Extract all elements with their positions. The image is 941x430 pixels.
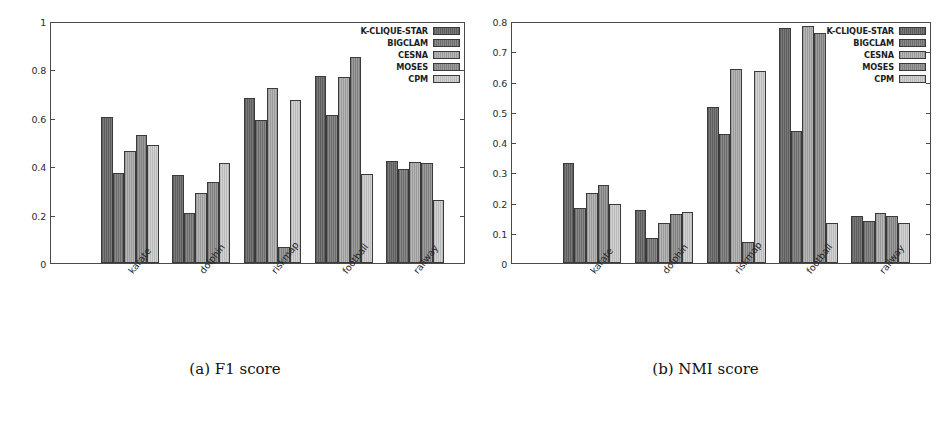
bar bbox=[409, 162, 421, 263]
plot-area-nmi: 00.10.20.30.40.50.60.70.8 karatedolphinr… bbox=[470, 0, 941, 330]
bar bbox=[635, 210, 647, 263]
y-tick-mark bbox=[460, 70, 465, 71]
legend-row: BIGCLAM bbox=[853, 38, 926, 48]
y-tick-label: 0.6 bbox=[16, 113, 46, 124]
plot-area-f1: 00.20.40.60.81 karatedolphinriskmapfootb… bbox=[0, 0, 470, 330]
legend-nmi: K-CLIQUE-STARBIGCLAMCESNAMOSESCPM bbox=[798, 26, 926, 84]
legend-swatch bbox=[433, 75, 460, 83]
bar bbox=[754, 71, 766, 263]
bar bbox=[113, 173, 125, 263]
legend-label: K-CLIQUE-STAR bbox=[361, 26, 428, 36]
bar bbox=[101, 117, 113, 263]
bar bbox=[586, 193, 598, 263]
bar bbox=[386, 161, 398, 263]
legend-row: CPM bbox=[408, 74, 460, 84]
panel-nmi-score: 00.10.20.30.40.50.60.70.8 karatedolphinr… bbox=[470, 0, 941, 330]
bar bbox=[875, 213, 887, 263]
bar bbox=[791, 131, 803, 263]
bar bbox=[326, 115, 338, 263]
caption-nmi: (b) NMI score bbox=[470, 360, 941, 378]
y-tick-mark bbox=[926, 52, 931, 53]
y-tick-label: 0.8 bbox=[16, 65, 46, 76]
legend-row: MOSES bbox=[396, 62, 460, 72]
y-tick-label: 0.7 bbox=[477, 47, 507, 58]
bar bbox=[779, 28, 791, 263]
bar bbox=[851, 216, 863, 263]
legend-label: CESNA bbox=[864, 50, 894, 60]
legend-swatch bbox=[899, 51, 926, 59]
legend-row: MOSES bbox=[862, 62, 926, 72]
legend-swatch bbox=[899, 63, 926, 71]
y-tick-mark bbox=[50, 119, 55, 120]
legend-label: BIGCLAM bbox=[387, 38, 428, 48]
bar bbox=[315, 76, 327, 263]
y-tick-label: 0.4 bbox=[16, 162, 46, 173]
legend-swatch bbox=[433, 39, 460, 47]
y-tick-label: 0 bbox=[477, 259, 507, 270]
y-tick-mark bbox=[460, 216, 465, 217]
legend-label: CESNA bbox=[398, 50, 428, 60]
bar bbox=[184, 213, 196, 263]
legend-row: CESNA bbox=[864, 50, 926, 60]
y-tick-mark bbox=[50, 70, 55, 71]
y-tick-mark bbox=[926, 113, 931, 114]
bar bbox=[863, 221, 875, 263]
legend-label: MOSES bbox=[862, 62, 894, 72]
legend-swatch bbox=[899, 27, 926, 35]
y-tick-label: 0.5 bbox=[477, 107, 507, 118]
legend-swatch bbox=[433, 63, 460, 71]
y-tick-label: 1 bbox=[16, 17, 46, 28]
y-tick-mark bbox=[460, 167, 465, 168]
y-tick-label: 0.6 bbox=[477, 77, 507, 88]
bar bbox=[255, 120, 267, 263]
y-tick-label: 0.8 bbox=[477, 17, 507, 28]
bar bbox=[244, 98, 256, 263]
bar bbox=[350, 57, 362, 263]
y-tick-mark bbox=[511, 52, 516, 53]
bar bbox=[563, 163, 575, 263]
y-tick-mark bbox=[460, 119, 465, 120]
legend-row: CESNA bbox=[398, 50, 460, 60]
panel-f1-score: 00.20.40.60.81 karatedolphinriskmapfootb… bbox=[0, 0, 470, 330]
legend-label: MOSES bbox=[396, 62, 428, 72]
legend-label: K-CLIQUE-STAR bbox=[827, 26, 894, 36]
legend-label: CPM bbox=[874, 74, 894, 84]
legend-label: BIGCLAM bbox=[853, 38, 894, 48]
y-tick-mark bbox=[926, 83, 931, 84]
bar bbox=[147, 145, 159, 263]
y-tick-label: 0.2 bbox=[477, 198, 507, 209]
y-tick-label: 0.3 bbox=[477, 168, 507, 179]
bar bbox=[136, 135, 148, 263]
bar bbox=[124, 151, 136, 263]
figure-container: 00.20.40.60.81 karatedolphinriskmapfootb… bbox=[0, 0, 941, 430]
bar bbox=[707, 107, 719, 263]
y-tick-label: 0.2 bbox=[16, 210, 46, 221]
legend-swatch bbox=[433, 27, 460, 35]
y-tick-mark bbox=[511, 143, 516, 144]
legend-row: CPM bbox=[874, 74, 926, 84]
y-tick-mark bbox=[50, 167, 55, 168]
legend-swatch bbox=[433, 51, 460, 59]
bar bbox=[719, 134, 731, 263]
legend-label: CPM bbox=[408, 74, 428, 84]
legend-swatch bbox=[899, 39, 926, 47]
y-tick-label: 0 bbox=[16, 259, 46, 270]
y-tick-mark bbox=[926, 234, 931, 235]
y-tick-label: 0.4 bbox=[477, 138, 507, 149]
bar bbox=[730, 69, 742, 264]
legend-row: BIGCLAM bbox=[387, 38, 460, 48]
bar bbox=[338, 77, 350, 263]
caption-f1: (a) F1 score bbox=[0, 360, 470, 378]
bar bbox=[646, 238, 658, 263]
y-tick-label: 0.1 bbox=[477, 228, 507, 239]
bar bbox=[195, 193, 207, 263]
bar bbox=[398, 169, 410, 263]
y-tick-mark bbox=[50, 216, 55, 217]
y-tick-mark bbox=[511, 173, 516, 174]
bar bbox=[172, 175, 184, 263]
legend-f1: K-CLIQUE-STARBIGCLAMCESNAMOSESCPM bbox=[332, 26, 460, 84]
legend-row: K-CLIQUE-STAR bbox=[827, 26, 926, 36]
y-tick-mark bbox=[511, 113, 516, 114]
y-tick-mark bbox=[926, 173, 931, 174]
y-tick-mark bbox=[511, 234, 516, 235]
